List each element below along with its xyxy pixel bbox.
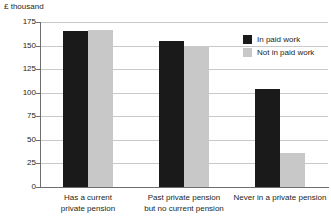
legend-item: Not in paid work bbox=[243, 46, 314, 59]
bar bbox=[184, 47, 209, 187]
legend-label: In paid work bbox=[257, 35, 300, 44]
x-axis-category-label-line: private pension bbox=[36, 203, 140, 214]
y-axis-line bbox=[40, 22, 41, 188]
x-axis-category-label-line: Never in a private pension bbox=[228, 192, 331, 203]
y-axis-ticks: 0255075100125150175 bbox=[0, 22, 36, 187]
x-axis-category-label: Never in a private pension bbox=[228, 192, 331, 203]
x-axis-category-label: Has a currentprivate pension bbox=[36, 192, 140, 214]
x-axis-category-label-line: but no current pension bbox=[132, 203, 236, 214]
y-axis-tick-label: 150 bbox=[6, 42, 36, 50]
x-axis-category-label-line: Has a current bbox=[36, 192, 140, 203]
chart-legend: In paid workNot in paid work bbox=[243, 33, 314, 59]
y-axis-tick-label: 0 bbox=[6, 183, 36, 191]
gridline bbox=[40, 22, 328, 23]
bar bbox=[63, 31, 88, 188]
y-axis-tick-label: 175 bbox=[6, 18, 36, 26]
y-axis-tick-label: 100 bbox=[6, 89, 36, 97]
x-axis-category-label-line: Past private pension bbox=[132, 192, 236, 203]
legend-label: Not in paid work bbox=[257, 48, 314, 57]
legend-swatch-icon bbox=[243, 48, 252, 57]
x-axis-line bbox=[40, 187, 329, 188]
bar bbox=[255, 89, 280, 187]
y-axis-tick-label: 50 bbox=[6, 136, 36, 144]
legend-item: In paid work bbox=[243, 33, 314, 46]
bar bbox=[280, 153, 305, 187]
y-axis-unit-label: £ thousand bbox=[4, 2, 44, 12]
y-axis-tick-label: 125 bbox=[6, 65, 36, 73]
legend-swatch-icon bbox=[243, 35, 252, 44]
y-axis-tick-label: 25 bbox=[6, 159, 36, 167]
y-axis-tick-label: 75 bbox=[6, 112, 36, 120]
bar bbox=[88, 30, 113, 187]
bar-chart: £ thousand 0255075100125150175 In paid w… bbox=[0, 0, 331, 221]
x-axis-category-label: Past private pensionbut no current pensi… bbox=[132, 192, 236, 214]
bar bbox=[159, 41, 184, 187]
